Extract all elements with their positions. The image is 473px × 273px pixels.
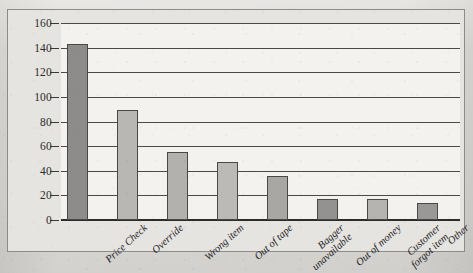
x-axis-label: Out of money [354,222,404,268]
y-axis-tick-marks [50,23,61,220]
x-axis-label: Customerforgot item [401,222,451,270]
bar: 47 [217,162,238,220]
plot-area: 14389554736171714 [61,23,460,220]
x-axis-label-line: Out of money [354,222,403,268]
x-axis-label: Out of tape [252,222,295,262]
x-axis-label-line: Out of tape [252,222,294,262]
gridline [61,48,460,49]
y-axis-tick-mark [50,122,59,123]
x-axis-label-line: Other [445,222,471,247]
x-axis-label: Override [150,222,186,256]
x-axis-label-line: Wrong item [202,222,245,263]
bar: 17 [317,199,338,220]
x-axis-label: Baggerunavailable [302,222,354,272]
y-axis-tick-mark [50,171,59,172]
bar: 143 [67,44,88,220]
y-axis-tick-mark [50,72,59,73]
figure-caption [0,267,473,273]
bar: 89 [117,110,138,220]
y-axis-labels: 020406080100120140160 [8,23,52,220]
y-axis-tick-mark [50,48,59,49]
gridline [61,23,460,24]
x-axis-label-line: Override [150,222,186,256]
x-axis-label: Other [445,222,471,247]
bar: 17 [367,199,388,220]
page-background: 020406080100120140160 14389554736171714 … [0,0,473,273]
gridline [61,97,460,98]
y-axis-tick-mark [50,195,59,196]
bar: 55 [167,152,188,220]
y-axis-tick-mark [50,146,59,147]
x-axis-labels: Price CheckOverrideWrong itemOut of tape… [61,222,460,273]
bar: 14 [417,203,438,220]
gridline [61,72,460,73]
chart-frame: 020406080100120140160 14389554736171714 … [7,9,465,252]
y-axis-tick-mark [50,97,59,98]
bar: 36 [267,176,288,220]
x-axis-label: Wrong item [202,222,246,263]
x-axis-label: Price Check [103,222,149,265]
y-axis-tick-mark [50,23,59,24]
y-axis-tick-mark [50,220,59,221]
x-axis-label-line: Price Check [103,222,149,265]
